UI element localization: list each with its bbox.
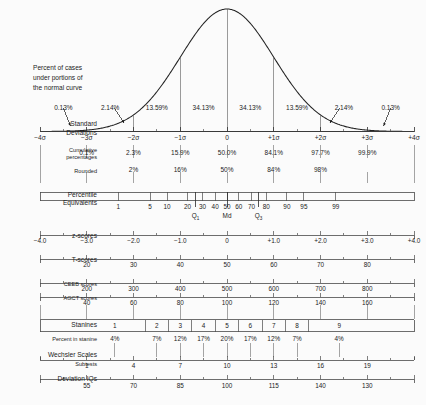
percentile-tick-3: 20 bbox=[184, 203, 191, 211]
z-scores-tick-7: +3.0 bbox=[361, 237, 374, 245]
z-scores-tick-3: −1.0 bbox=[174, 237, 187, 245]
stanine-cell-8: 8 bbox=[295, 322, 299, 330]
percentile-tick-6: 50 bbox=[223, 203, 230, 211]
row-label-wechsler-subtests: Subtests bbox=[0, 360, 97, 368]
percentile-quartile-0: Q1 bbox=[192, 212, 200, 223]
t-scores-tick-3: 50 bbox=[223, 261, 230, 269]
percentile-quartile-1: Md bbox=[223, 212, 232, 220]
deviation-iqs-tick-4: 115 bbox=[269, 382, 279, 390]
cumulative-tick-6: 99.9% bbox=[358, 149, 376, 156]
cumulative-tick-2: 15.9% bbox=[171, 149, 189, 156]
stanine-percent-5: 20% bbox=[221, 335, 234, 343]
annotation-line-1: under portions of bbox=[33, 73, 83, 82]
band-percent-2: 13.59% bbox=[146, 104, 168, 111]
stanine-cell-6: 6 bbox=[249, 322, 253, 330]
z-scores-tick-1: −3.0 bbox=[80, 237, 93, 245]
row-label-standard: Standard bbox=[0, 120, 97, 128]
z-scores-tick-2: −2.0 bbox=[127, 237, 140, 245]
z-scores-tick-4: 0 bbox=[225, 237, 229, 245]
t-scores-tick-2: 40 bbox=[177, 261, 184, 269]
agct-scores-tick-5: 140 bbox=[315, 299, 326, 307]
t-scores-tick-6: 80 bbox=[364, 261, 371, 269]
wechsler-subtests-tick-0: 1 bbox=[85, 362, 89, 370]
std-dev-tick-7: +3σ bbox=[361, 134, 373, 141]
deviation-iqs-tick-2: 85 bbox=[177, 382, 184, 390]
normal-curve-standard-scores-chart: 0.13%2.14%13.59%34.13%34.13%13.59%2.14%0… bbox=[0, 0, 426, 405]
row-label-equivalents: Equivalents bbox=[0, 199, 97, 207]
stanine-percent-1: 4% bbox=[110, 335, 119, 343]
percentile-tick-0: 1 bbox=[116, 203, 120, 211]
std-dev-tick-0: −4σ bbox=[34, 134, 46, 141]
rounded-tick-4: 98% bbox=[314, 166, 327, 173]
wechsler-subtests-tick-6: 19 bbox=[364, 362, 371, 370]
agct-scores-tick-0: 40 bbox=[83, 299, 90, 307]
wechsler-subtests-tick-1: 4 bbox=[132, 362, 136, 370]
cumulative-tick-1: 2.3% bbox=[126, 149, 141, 156]
t-scores-tick-0: 20 bbox=[83, 261, 90, 269]
agct-scores-tick-2: 80 bbox=[177, 299, 184, 307]
stanine-percent-2: 7% bbox=[152, 335, 161, 343]
cumulative-tick-5: 97.7% bbox=[311, 149, 329, 156]
std-dev-tick-8: +4σ bbox=[408, 134, 420, 141]
stanine-cell-2: 2 bbox=[155, 322, 159, 330]
row-label-percent-in-stanine: Percent in stanine bbox=[0, 335, 97, 343]
percentile-tick-8: 70 bbox=[248, 203, 255, 211]
percentile-tick-10: 90 bbox=[283, 203, 290, 211]
row-label-percentile: Percentile bbox=[0, 191, 97, 199]
t-scores-tick-5: 70 bbox=[317, 261, 324, 269]
percentile-tick-5: 40 bbox=[212, 203, 219, 211]
percentile-tick-12: 99 bbox=[332, 203, 339, 211]
percentile-tick-11: 95 bbox=[300, 203, 307, 211]
rounded-tick-0: 2% bbox=[129, 166, 138, 173]
percentile-tick-7: 60 bbox=[235, 203, 242, 211]
band-percent-1: 2.14% bbox=[101, 104, 119, 111]
stanine-percent-4: 17% bbox=[197, 335, 210, 343]
wechsler-subtests-tick-5: 16 bbox=[317, 362, 324, 370]
band-percent-6: 2.14% bbox=[335, 104, 353, 111]
agct-scores-tick-3: 100 bbox=[222, 299, 233, 307]
z-scores-tick-8: +4.0 bbox=[408, 237, 421, 245]
deviation-iqs-tick-5: 140 bbox=[315, 382, 326, 390]
stanine-percent-8: 7% bbox=[293, 335, 302, 343]
std-dev-tick-6: +2σ bbox=[315, 134, 327, 141]
annotation-line-2: the normal curve bbox=[33, 83, 82, 92]
band-percent-4: 34.13% bbox=[239, 104, 261, 111]
deviation-iqs-tick-0: 55 bbox=[83, 382, 90, 390]
annotation-line-0: Percent of cases bbox=[33, 63, 82, 72]
ceeb-scores-tick-4: 600 bbox=[268, 285, 279, 293]
z-scores-tick-6: +2.0 bbox=[314, 237, 327, 245]
row-label-wechsler-scales: Wechsler Scales bbox=[0, 351, 97, 359]
percentile-quartile-2: Q3 bbox=[255, 212, 263, 223]
agct-scores-tick-6: 160 bbox=[362, 299, 373, 307]
stanine-percent-7: 12% bbox=[267, 335, 280, 343]
stanine-percent-3: 12% bbox=[174, 335, 187, 343]
agct-scores-tick-1: 60 bbox=[130, 299, 137, 307]
wechsler-subtests-tick-3: 10 bbox=[223, 362, 230, 370]
stanine-cell-5: 5 bbox=[225, 322, 229, 330]
std-dev-tick-3: −1σ bbox=[174, 134, 186, 141]
std-dev-tick-1: −3σ bbox=[81, 134, 93, 141]
band-percent-7: 0.13% bbox=[381, 104, 399, 111]
t-scores-tick-1: 30 bbox=[130, 261, 137, 269]
band-percent-0: 0.13% bbox=[54, 104, 72, 111]
z-scores-tick-5: +1.0 bbox=[267, 237, 280, 245]
band-percent-3: 34.13% bbox=[193, 104, 215, 111]
percentile-tick-2: 10 bbox=[164, 203, 171, 211]
cumulative-tick-0: 0.1% bbox=[79, 149, 94, 156]
t-scores-tick-4: 60 bbox=[270, 261, 277, 269]
percentile-tick-4: 30 bbox=[199, 203, 206, 211]
z-scores-tick-0: −4.0 bbox=[34, 237, 47, 245]
percentile-tick-1: 5 bbox=[148, 203, 152, 211]
deviation-iqs-tick-6: 130 bbox=[362, 382, 373, 390]
rounded-tick-1: 16% bbox=[174, 166, 187, 173]
wechsler-subtests-tick-4: 13 bbox=[270, 362, 277, 370]
deviation-iqs-tick-3: 100 bbox=[222, 382, 233, 390]
row-label-stanines: Stanines bbox=[0, 321, 97, 329]
percentile-tick-9: 80 bbox=[263, 203, 270, 211]
stanine-cell-1: 1 bbox=[113, 322, 117, 330]
stanine-percent-6: 17% bbox=[244, 335, 257, 343]
rounded-tick-2: 50% bbox=[220, 166, 233, 173]
ceeb-scores-tick-6: 800 bbox=[362, 285, 373, 293]
ceeb-scores-tick-1: 300 bbox=[128, 285, 139, 293]
stanine-cell-7: 7 bbox=[272, 322, 276, 330]
